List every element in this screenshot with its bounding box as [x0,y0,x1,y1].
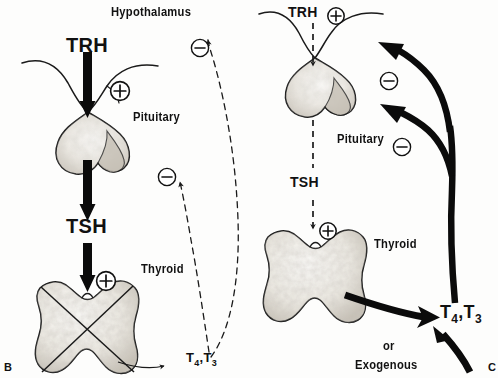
thyroid-feedback-figure: Hypothalamus TRH Pituitary TSH Thyroid T… [0,0,498,378]
panel-b-feedback-hypothalamus-minus-sign [191,39,208,56]
panel-b-pituitary-gland [56,112,129,174]
panel-b-hormones-t: T [186,350,194,365]
panel-b-trh-arrow [80,52,96,118]
panel-c-feedback-hypothalamus-minus-sign [380,72,397,89]
panel-c-trh-label: TRH [288,5,318,19]
panel-c-hormones-label: T4,T3 [440,303,482,325]
panel-c-pituitary-plus-sign [328,8,344,24]
panel-c-or-label: or [383,339,395,352]
panel-c-feedback-pituitary-minus-sign [393,138,410,155]
panel-c-hormones-t: T [440,302,451,322]
panel-b-tsh-label: TSH [66,216,107,236]
panel-b-feedback-hypothalamus-arrow [208,40,238,357]
panel-b-thyroid-gland [35,281,139,374]
panel-c-tsh-label: TSH [290,175,319,189]
panel-c-exogenous-label: Exogenous [355,358,418,371]
panel-c-thyroid-isthmus [310,243,321,248]
panel-c-hormones-sep: ,T [458,302,475,322]
panel-b-thyroid-plus-sign [97,272,116,291]
panel-b-pituitary-plus-sign [111,82,130,101]
panel-c-thyroid-mottling [263,230,367,323]
panel-b-group [22,39,238,373]
panel-b-hormones-sub-3: 3 [212,358,217,368]
panel-c-pituitary-label: Pituitary [337,132,384,145]
panel-c-thyroid-gland [263,230,367,323]
panel-b-letter: B [4,361,12,373]
panel-b-hormones-label: T4,T3 [186,351,217,368]
panel-c-exogenous-input-arrow [433,326,470,372]
panel-c-letter: C [488,361,496,373]
panel-b-hypothalamus-label: Hypothalamus [111,5,191,18]
panel-b-thyroid-isthmus [82,294,93,299]
diagram-canvas [0,0,498,378]
panel-b-trh-label: TRH [66,35,108,55]
panel-c-thyroid-label: Thyroid [374,237,417,250]
panel-c-feedback-trunk [450,126,455,303]
panel-b-thyroid-label: Thyroid [141,262,184,275]
panel-c-feedback-pituitary-arrow [380,104,452,176]
panel-b-hormones-sep: ,T [200,350,212,365]
panel-c-thyroid-plus-sign [320,223,336,239]
panel-c-hypothalamus-outline [259,12,383,58]
panel-b-feedback-pituitary-minus-sign [158,168,175,185]
panel-b-feedback-pituitary-arrow [180,182,209,352]
panel-b-pituitary-label: Pituitary [133,110,180,123]
panel-c-hormones-sub-3: 3 [475,312,482,326]
panel-c-pituitary-gland [286,58,356,117]
